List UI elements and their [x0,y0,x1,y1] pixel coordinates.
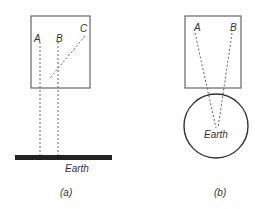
earth-circle [184,94,248,158]
label-c: C [80,23,88,34]
label-a: A [33,33,41,44]
label-a-b: A [193,22,201,33]
label-b: B [56,33,63,44]
label-b-b: B [230,22,237,33]
earth-label-a: Earth [65,163,89,174]
earth-label-b: Earth [204,129,228,140]
diagram-a: A B C Earth (a) [15,16,112,198]
caption-a: (a) [60,187,72,198]
diagram-b: A B Earth (b) [184,16,248,198]
caption-b: (b) [214,187,226,198]
ray-b-b [218,33,232,128]
diagram-canvas: A B C Earth (a) A B Earth (b) [0,0,255,209]
earth-flat-bar [15,155,112,160]
ray-a-b [195,33,216,128]
